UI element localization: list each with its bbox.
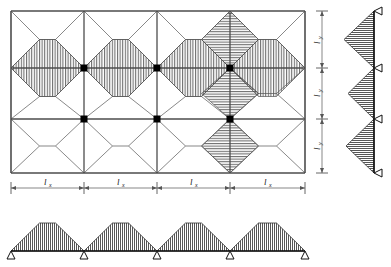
- column-marker: [81, 65, 88, 72]
- structural-diagram-svg: l x l x l x l x: [0, 0, 391, 267]
- svg-text:y: y: [317, 89, 323, 93]
- svg-text:x: x: [268, 182, 272, 188]
- svg-text:y: y: [317, 142, 323, 146]
- column-marker: [227, 116, 234, 123]
- column-marker: [154, 116, 161, 123]
- figure-root: l x l x l x l x: [0, 0, 391, 267]
- column-marker: [227, 65, 234, 72]
- svg-text:y: y: [317, 36, 323, 40]
- svg-text:x: x: [121, 182, 125, 188]
- svg-text:x: x: [48, 182, 52, 188]
- svg-text:x: x: [194, 182, 198, 188]
- column-marker: [154, 65, 161, 72]
- column-marker: [81, 116, 88, 123]
